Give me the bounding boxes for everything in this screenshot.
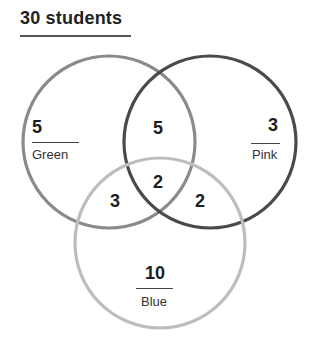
pink-label-rule — [251, 143, 280, 144]
venn-diagram — [0, 0, 314, 340]
pink-blue-count: 2 — [195, 192, 205, 210]
green-label-rule — [32, 142, 79, 143]
blue-only-count: 10 — [145, 264, 165, 282]
green-pink-count: 5 — [153, 119, 163, 137]
green-blue-count: 3 — [110, 192, 120, 210]
green-label: Green — [32, 148, 68, 161]
blue-label-rule — [136, 288, 173, 289]
all-three-count: 2 — [153, 173, 163, 191]
pink-only-count: 3 — [268, 116, 278, 134]
pink-set-circle — [124, 56, 296, 228]
pink-label: Pink — [252, 148, 277, 161]
green-only-count: 5 — [32, 118, 42, 136]
blue-label: Blue — [141, 295, 167, 308]
